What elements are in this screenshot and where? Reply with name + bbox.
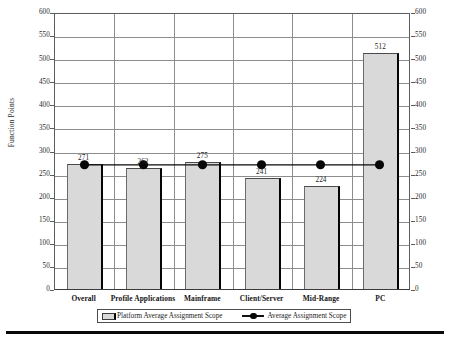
line-marker-mid-range bbox=[316, 160, 325, 169]
bar-value-label-mainframe: 275 bbox=[182, 152, 222, 160]
plot-area bbox=[54, 13, 410, 290]
y-tick-mark-right-450 bbox=[411, 82, 415, 83]
line-marker-swatch-icon bbox=[242, 312, 264, 320]
bar-value-label-mid-range: 224 bbox=[301, 176, 341, 184]
chart-figure: 600550500450400350300250200150100500 600… bbox=[0, 0, 450, 342]
y-tick-label-left-100: 100 bbox=[39, 240, 50, 247]
y-tick-label-right-200: 200 bbox=[415, 194, 426, 201]
y-tick-mark-right-200 bbox=[411, 198, 415, 199]
y-tick-label-left-400: 400 bbox=[39, 102, 50, 109]
line-series-layer bbox=[55, 14, 409, 289]
y-tick-mark-right-50 bbox=[411, 267, 415, 268]
line-marker-mainframe bbox=[198, 160, 207, 169]
y-tick-label-right-450: 450 bbox=[415, 79, 426, 86]
y-tick-label-left-550: 550 bbox=[39, 32, 50, 39]
y-tick-mark-right-550 bbox=[411, 36, 415, 37]
y-tick-mark-right-100 bbox=[411, 244, 415, 245]
bottom-rule bbox=[6, 331, 444, 334]
y-tick-mark-right-500 bbox=[411, 59, 415, 60]
y-tick-label-right-600: 600 bbox=[415, 9, 426, 16]
y-tick-label-right-400: 400 bbox=[415, 102, 426, 109]
chart-legend: Platform Average Assignment Scope Averag… bbox=[97, 309, 351, 323]
y-tick-mark-right-150 bbox=[411, 221, 415, 222]
y-tick-label-right-500: 500 bbox=[415, 56, 426, 63]
y-tick-label-right-0: 0 bbox=[415, 286, 419, 293]
y-tick-label-right-350: 350 bbox=[415, 125, 426, 132]
y-tick-label-right-250: 250 bbox=[415, 171, 426, 178]
line-marker-pc bbox=[375, 160, 384, 169]
y-tick-mark-right-400 bbox=[411, 105, 415, 106]
y-tick-mark-right-250 bbox=[411, 175, 415, 176]
y-tick-label-left-300: 300 bbox=[39, 148, 50, 155]
y-tick-label-right-150: 150 bbox=[415, 217, 426, 224]
y-tick-label-left-200: 200 bbox=[39, 194, 50, 201]
bar-swatch-icon bbox=[102, 313, 116, 320]
y-tick-label-left-50: 50 bbox=[43, 263, 50, 270]
y-tick-label-left-600: 600 bbox=[39, 9, 50, 16]
y-tick-label-right-100: 100 bbox=[415, 240, 426, 247]
y-axis-title: Function Points bbox=[7, 68, 16, 178]
y-tick-label-left-150: 150 bbox=[39, 217, 50, 224]
y-tick-label-left-250: 250 bbox=[39, 171, 50, 178]
y-tick-label-right-300: 300 bbox=[415, 148, 426, 155]
y-tick-label-left-350: 350 bbox=[39, 125, 50, 132]
y-axis-left: 600550500450400350300250200150100500 bbox=[18, 13, 50, 290]
y-tick-label-left-500: 500 bbox=[39, 56, 50, 63]
y-tick-mark-left-0 bbox=[50, 290, 54, 291]
y-tick-mark-right-300 bbox=[411, 152, 415, 153]
y-tick-label-right-50: 50 bbox=[415, 263, 422, 270]
bar-value-label-overall: 271 bbox=[64, 154, 104, 162]
legend-label-bar: Platform Average Assignment Scope bbox=[117, 312, 222, 320]
bar-value-label-pc: 512 bbox=[360, 43, 400, 51]
y-tick-mark-right-0 bbox=[411, 290, 415, 291]
legend-item-platform-average-assignment-scope: Platform Average Assignment Scope bbox=[102, 312, 222, 320]
y-tick-label-left-450: 450 bbox=[39, 79, 50, 86]
bar-value-label-profile-applications: 262 bbox=[123, 158, 163, 166]
y-axis-right: 600550500450400350300250200150100500 bbox=[415, 13, 447, 290]
y-tick-mark-right-600 bbox=[411, 13, 415, 14]
category-label-pc: PC bbox=[330, 294, 430, 303]
bar-value-label-client-server: 241 bbox=[242, 168, 282, 176]
y-tick-mark-right-350 bbox=[411, 128, 415, 129]
legend-item-average-assignment-scope: Average Assignment Scope bbox=[242, 312, 346, 320]
y-tick-label-right-550: 550 bbox=[415, 32, 426, 39]
legend-label-line: Average Assignment Scope bbox=[267, 312, 346, 320]
